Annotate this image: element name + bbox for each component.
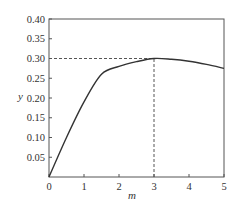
line-chart: 0.050.100.150.200.250.300.350.40 012345 … <box>0 0 238 216</box>
y-tick-label: 0.30 <box>27 53 45 64</box>
y-tick-label: 0.20 <box>27 93 45 104</box>
y-tick-label: 0.10 <box>27 132 45 143</box>
y-axis-label: y <box>17 90 23 102</box>
y-axis-ticks: 0.050.100.150.200.250.300.350.40 <box>27 14 52 163</box>
x-tick-label: 4 <box>186 181 192 192</box>
x-tick-label: 1 <box>81 181 86 192</box>
y-tick-label: 0.25 <box>27 73 45 84</box>
series-line <box>49 58 224 177</box>
plot-frame <box>49 19 224 177</box>
y-tick-label: 0.40 <box>27 14 45 25</box>
y-tick-label: 0.15 <box>27 112 45 123</box>
x-tick-label: 0 <box>46 181 51 192</box>
y-tick-label: 0.35 <box>27 33 45 44</box>
reference-guides <box>49 59 154 178</box>
x-tick-label: 5 <box>221 181 226 192</box>
x-tick-label: 3 <box>151 181 156 192</box>
x-axis-label: m <box>128 189 136 201</box>
data-curve <box>49 58 224 177</box>
y-tick-label: 0.05 <box>27 152 45 163</box>
x-tick-label: 2 <box>116 181 121 192</box>
